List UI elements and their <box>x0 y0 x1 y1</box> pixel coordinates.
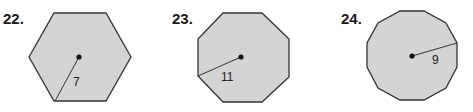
dodecagon-figure: 9 <box>367 11 457 100</box>
polygon-figures: 7 11 9 <box>0 0 473 112</box>
dodecagon-radius-label: 9 <box>432 53 439 67</box>
hexagon-radius-label: 7 <box>73 75 80 89</box>
hexagon-figure: 7 <box>29 13 131 101</box>
octagon-radius-label: 11 <box>221 70 234 84</box>
octagon-figure: 11 <box>198 13 289 102</box>
